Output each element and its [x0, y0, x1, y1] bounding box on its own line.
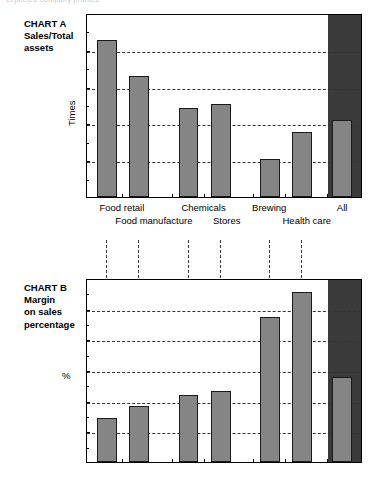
category-label: Stores — [213, 215, 240, 226]
category-label: Food manufacture — [115, 215, 192, 226]
y-tick-mark — [86, 161, 90, 162]
x-tick-mark — [285, 194, 286, 198]
y-tick-mark-minor — [86, 356, 89, 357]
y-tick-mark-minor — [86, 69, 89, 70]
x-tick-mark — [327, 194, 328, 198]
y-tick-mark-minor — [86, 448, 89, 449]
chart-a-y-axis-title: Times — [66, 100, 77, 126]
x-tick-mark — [172, 459, 173, 463]
page-top-text-fragment: expected company profiles — [6, 0, 186, 6]
x-tick-mark — [204, 459, 205, 463]
connector-line — [269, 240, 270, 278]
y-tick-mark — [86, 88, 90, 89]
chart-b-plot-area — [86, 279, 362, 463]
bar-food-manufacture — [129, 406, 149, 462]
bar-all — [332, 377, 352, 462]
x-tick-mark — [122, 194, 123, 198]
x-tick-mark — [204, 194, 205, 198]
y-tick-mark — [86, 402, 90, 403]
y-tick-mark-minor — [86, 32, 89, 33]
y-tick-mark-minor — [86, 417, 89, 418]
bar-brewing — [260, 317, 280, 462]
y-tick-mark — [86, 432, 90, 433]
x-tick-mark — [253, 459, 254, 463]
category-label: Food retail — [99, 202, 144, 213]
bar-chemicals — [179, 108, 199, 197]
connector-line — [301, 240, 302, 278]
y-tick-mark-minor — [86, 106, 89, 107]
y-tick-mark-minor — [86, 143, 89, 144]
category-label: All — [337, 202, 348, 213]
x-tick-mark — [172, 194, 173, 198]
connector-line — [220, 240, 221, 278]
x-tick-mark — [327, 459, 328, 463]
bar-all — [332, 120, 352, 197]
y-tick-mark — [86, 51, 90, 52]
y-tick-mark — [86, 124, 90, 125]
chart-b-y-axis-title: % — [62, 370, 70, 381]
connector-line — [106, 240, 107, 278]
chart-b-caption: CHART B Margin on sales percentage — [24, 282, 75, 331]
gridline — [87, 341, 361, 342]
y-tick-mark — [86, 371, 90, 372]
y-tick-mark — [86, 310, 90, 311]
gridline — [87, 52, 361, 53]
gridline — [87, 372, 361, 373]
connector-line — [138, 240, 139, 278]
connector-line — [188, 240, 189, 278]
bar-brewing — [260, 159, 280, 197]
category-label: Brewing — [252, 202, 286, 213]
bar-food-retail — [97, 418, 117, 462]
y-tick-mark-minor — [86, 325, 89, 326]
bar-stores — [211, 391, 231, 462]
y-tick-mark-minor — [86, 180, 89, 181]
x-tick-mark — [253, 194, 254, 198]
category-label: Health care — [283, 215, 332, 226]
chart-a-plot-area — [86, 14, 362, 198]
x-tick-mark — [122, 459, 123, 463]
bar-health-care — [292, 292, 312, 462]
y-tick-mark-minor — [86, 294, 89, 295]
category-label: Chemicals — [181, 202, 225, 213]
bar-food-retail — [97, 40, 117, 197]
bar-food-manufacture — [129, 76, 149, 197]
y-tick-mark — [86, 340, 90, 341]
x-tick-mark — [285, 459, 286, 463]
y-tick-mark-minor — [86, 386, 89, 387]
bar-health-care — [292, 132, 312, 198]
bar-stores — [211, 104, 231, 197]
bar-chemicals — [179, 395, 199, 462]
chart-a-caption: CHART A Sales/Total assets — [24, 18, 73, 55]
gridline — [87, 311, 361, 312]
